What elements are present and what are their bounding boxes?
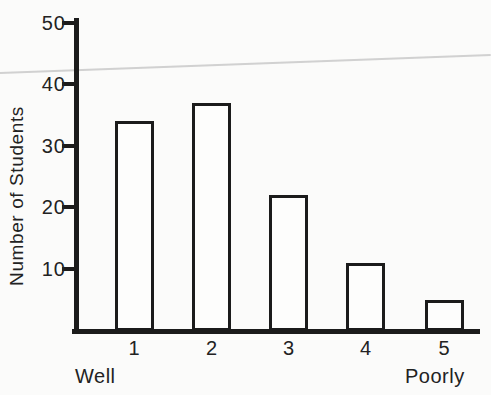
y-tick-label-30: 30 [22,136,66,156]
x-tick-label-3: 3 [269,338,309,358]
y-axis-line [74,18,79,333]
x-tick-label-2: 2 [192,338,232,358]
y-tick-label-40: 40 [22,74,66,94]
x-tick-label-5: 5 [424,338,464,358]
x-axis-anchor-well: Well [75,365,116,388]
x-tick-label-4: 4 [346,338,386,358]
y-axis-title: Number of Students [6,106,28,286]
bar-category-1 [115,121,154,331]
bar-category-2 [192,103,231,332]
x-tick-label-1: 1 [114,338,154,358]
x-axis-anchor-poorly: Poorly [405,365,465,388]
bar-category-4 [346,263,385,332]
y-tick-label-50: 50 [22,13,66,33]
bar-category-5 [425,300,464,332]
bar-category-3 [269,195,308,332]
y-tick-label-20: 20 [22,197,66,217]
y-tick-label-10: 10 [22,259,66,279]
